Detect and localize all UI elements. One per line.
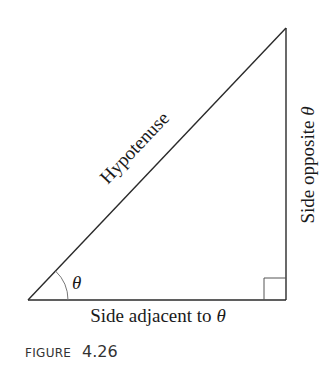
adjacent-side-text: Side adjacent to xyxy=(90,305,216,326)
hypotenuse-label: Hypotenuse xyxy=(95,107,173,187)
adjacent-theta: θ xyxy=(216,305,225,326)
hypotenuse-line xyxy=(28,28,286,300)
right-triangle-diagram: θ Hypotenuse Side opposite θ Side adjace… xyxy=(0,0,326,366)
opposite-theta: θ xyxy=(297,106,318,115)
angle-arc xyxy=(56,271,69,300)
figure-caption-label: FIGURE xyxy=(25,346,71,360)
opposite-side-text: Side opposite xyxy=(297,116,318,224)
opposite-side-label: Side opposite θ xyxy=(297,106,318,223)
right-angle-marker xyxy=(264,278,286,300)
angle-theta-label: θ xyxy=(72,272,81,293)
adjacent-side-label: Side adjacent to θ xyxy=(90,305,225,326)
figure-caption-number: 4.26 xyxy=(82,342,118,361)
